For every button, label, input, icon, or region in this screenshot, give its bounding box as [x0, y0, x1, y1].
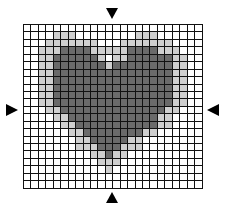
grid-cell[interactable]	[121, 166, 128, 173]
grid-cell[interactable]	[76, 181, 83, 188]
grid-cell[interactable]	[188, 85, 195, 92]
grid-cell[interactable]	[113, 77, 120, 84]
grid-cell[interactable]	[24, 55, 31, 62]
grid-cell[interactable]	[150, 47, 157, 54]
grid-cell[interactable]	[165, 129, 172, 136]
grid-cell[interactable]	[69, 144, 76, 151]
grid-cell[interactable]	[128, 32, 135, 39]
grid-cell[interactable]	[54, 107, 61, 114]
grid-cell[interactable]	[158, 47, 165, 54]
grid-cell[interactable]	[76, 107, 83, 114]
grid-cell[interactable]	[84, 151, 91, 158]
grid-cell[interactable]	[106, 159, 113, 166]
grid-cell[interactable]	[195, 25, 202, 32]
grid-cell[interactable]	[39, 92, 46, 99]
grid-cell[interactable]	[136, 159, 143, 166]
grid-cell[interactable]	[158, 40, 165, 47]
grid-cell[interactable]	[165, 85, 172, 92]
grid-cell[interactable]	[98, 107, 105, 114]
grid-cell[interactable]	[69, 70, 76, 77]
grid-cell[interactable]	[31, 55, 38, 62]
grid-cell[interactable]	[158, 122, 165, 129]
grid-cell[interactable]	[91, 32, 98, 39]
grid-cell[interactable]	[173, 107, 180, 114]
grid-cell[interactable]	[128, 114, 135, 121]
grid-cell[interactable]	[98, 137, 105, 144]
grid-cell[interactable]	[69, 174, 76, 181]
pixel-grid[interactable]	[23, 24, 203, 189]
grid-cell[interactable]	[31, 129, 38, 136]
grid-cell[interactable]	[158, 85, 165, 92]
grid-cell[interactable]	[106, 40, 113, 47]
grid-cell[interactable]	[121, 99, 128, 106]
grid-cell[interactable]	[158, 166, 165, 173]
grid-cell[interactable]	[84, 62, 91, 69]
grid-cell[interactable]	[24, 114, 31, 121]
grid-cell[interactable]	[188, 47, 195, 54]
grid-cell[interactable]	[136, 99, 143, 106]
grid-cell[interactable]	[84, 77, 91, 84]
grid-cell[interactable]	[69, 181, 76, 188]
grid-cell[interactable]	[165, 107, 172, 114]
grid-cell[interactable]	[46, 151, 53, 158]
grid-cell[interactable]	[143, 85, 150, 92]
grid-cell[interactable]	[31, 174, 38, 181]
grid-cell[interactable]	[165, 122, 172, 129]
grid-cell[interactable]	[54, 174, 61, 181]
grid-cell[interactable]	[195, 92, 202, 99]
grid-cell[interactable]	[98, 92, 105, 99]
grid-cell[interactable]	[150, 55, 157, 62]
grid-cell[interactable]	[39, 32, 46, 39]
grid-cell[interactable]	[39, 181, 46, 188]
grid-cell[interactable]	[158, 159, 165, 166]
grid-cell[interactable]	[195, 55, 202, 62]
grid-cell[interactable]	[143, 122, 150, 129]
grid-cell[interactable]	[54, 151, 61, 158]
grid-cell[interactable]	[39, 144, 46, 151]
grid-cell[interactable]	[98, 62, 105, 69]
grid-cell[interactable]	[113, 99, 120, 106]
grid-cell[interactable]	[113, 144, 120, 151]
grid-cell[interactable]	[61, 107, 68, 114]
grid-cell[interactable]	[165, 40, 172, 47]
grid-cell[interactable]	[180, 129, 187, 136]
grid-cell[interactable]	[180, 122, 187, 129]
grid-cell[interactable]	[98, 70, 105, 77]
grid-cell[interactable]	[61, 47, 68, 54]
grid-cell[interactable]	[113, 92, 120, 99]
grid-cell[interactable]	[128, 181, 135, 188]
grid-cell[interactable]	[128, 174, 135, 181]
grid-cell[interactable]	[76, 137, 83, 144]
grid-cell[interactable]	[91, 159, 98, 166]
grid-cell[interactable]	[69, 77, 76, 84]
grid-cell[interactable]	[150, 144, 157, 151]
grid-cell[interactable]	[69, 166, 76, 173]
grid-cell[interactable]	[84, 129, 91, 136]
grid-cell[interactable]	[46, 129, 53, 136]
grid-cell[interactable]	[31, 166, 38, 173]
grid-cell[interactable]	[143, 55, 150, 62]
grid-cell[interactable]	[136, 181, 143, 188]
grid-cell[interactable]	[113, 62, 120, 69]
grid-cell[interactable]	[165, 174, 172, 181]
grid-cell[interactable]	[165, 114, 172, 121]
grid-cell[interactable]	[113, 129, 120, 136]
grid-cell[interactable]	[136, 137, 143, 144]
grid-cell[interactable]	[150, 85, 157, 92]
grid-cell[interactable]	[31, 40, 38, 47]
grid-cell[interactable]	[31, 181, 38, 188]
grid-cell[interactable]	[46, 62, 53, 69]
grid-cell[interactable]	[121, 32, 128, 39]
grid-cell[interactable]	[91, 129, 98, 136]
grid-cell[interactable]	[150, 32, 157, 39]
grid-cell[interactable]	[106, 99, 113, 106]
grid-cell[interactable]	[180, 47, 187, 54]
grid-cell[interactable]	[121, 122, 128, 129]
grid-cell[interactable]	[54, 166, 61, 173]
grid-cell[interactable]	[98, 181, 105, 188]
grid-cell[interactable]	[84, 55, 91, 62]
grid-cell[interactable]	[121, 55, 128, 62]
grid-cell[interactable]	[98, 85, 105, 92]
grid-cell[interactable]	[31, 159, 38, 166]
grid-cell[interactable]	[106, 166, 113, 173]
